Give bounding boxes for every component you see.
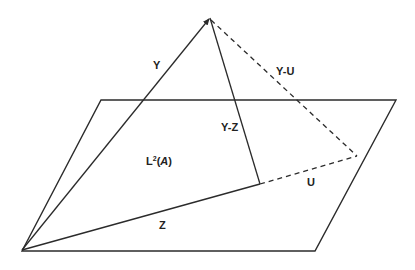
label-plane: L2(A) [146, 155, 172, 167]
label-y-minus-u: Y-U [276, 66, 294, 77]
segment-y-minus-u [211, 20, 357, 156]
label-y-minus-z-text: Y-Z [221, 121, 238, 133]
label-u: U [307, 177, 315, 188]
segment-y-minus-z [210, 18, 260, 184]
label-plane-prefix: L [146, 155, 153, 167]
label-y-minus-u-text: Y-U [276, 65, 294, 77]
plane-l2a [22, 100, 396, 251]
label-plane-close: ) [168, 155, 172, 167]
label-y-text: Y [153, 59, 160, 71]
label-y-minus-z: Y-Z [221, 122, 238, 133]
label-u-text: U [307, 176, 315, 188]
vector-z [22, 184, 260, 250]
label-y: Y [153, 60, 160, 71]
projection-diagram [0, 0, 415, 270]
label-z: Z [159, 220, 166, 231]
label-z-text: Z [159, 219, 166, 231]
vector-y [22, 19, 209, 250]
